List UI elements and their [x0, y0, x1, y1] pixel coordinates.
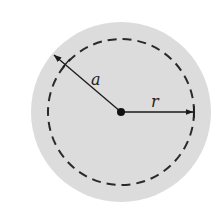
label-a: a [91, 70, 101, 89]
label-r: r [151, 92, 160, 111]
circle-diagram: a r [0, 0, 220, 209]
center-point [117, 108, 125, 116]
